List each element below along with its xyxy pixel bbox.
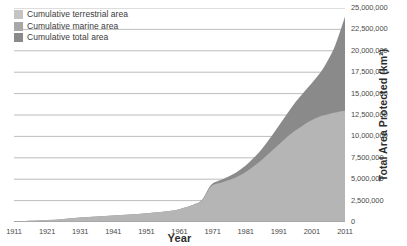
- x-axis-title: Year: [14, 232, 345, 244]
- y-axis-title: Total Area Protected (km²): [378, 49, 390, 182]
- y-axis-title-wrapper: Total Area Protected (km²): [388, 8, 404, 222]
- legend-swatch-marine: [14, 22, 23, 31]
- y-axis-tick-label: 0: [351, 218, 355, 226]
- y-axis-tick-label: 25,000,000: [351, 4, 388, 12]
- y-axis-tick-label: 2,500,000: [351, 197, 383, 205]
- y-axis-tick-label: 22,500,000: [351, 25, 388, 33]
- legend-swatch-terrestrial: [14, 10, 23, 19]
- chart-container: Cumulative terrestrial area Cumulative m…: [0, 0, 407, 246]
- legend-item-total: Cumulative total area: [14, 32, 128, 43]
- legend-label-marine: Cumulative marine area: [27, 22, 118, 31]
- legend-item-marine: Cumulative marine area: [14, 21, 128, 32]
- legend-swatch-total: [14, 33, 23, 42]
- legend-item-terrestrial: Cumulative terrestrial area: [14, 9, 128, 20]
- chart-legend: Cumulative terrestrial area Cumulative m…: [14, 9, 128, 44]
- legend-label-total: Cumulative total area: [27, 33, 108, 42]
- legend-label-terrestrial: Cumulative terrestrial area: [27, 10, 128, 19]
